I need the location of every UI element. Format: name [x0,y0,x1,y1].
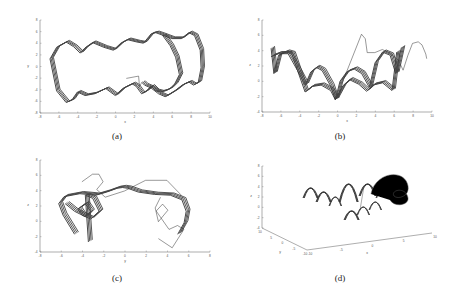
chart-panel-a: -8-6-4-2024681086420-2-4-6-8xy [0,0,230,150]
x-tick-label: -4 [298,114,301,118]
y-tick-label: 4 [36,41,38,45]
y-tick-label: -4 [35,250,38,254]
x-axis-label: x [366,251,368,255]
x-tick-label: 2 [356,114,358,118]
x-axis-label: y [124,259,126,263]
y-tick-label: -2 [257,95,260,99]
trajectory-inner-loops-right [155,197,184,248]
x-tick-label: 4 [152,115,154,119]
x-tick-label: -2 [102,254,105,258]
x-tick-label: -6 [57,115,60,119]
trajectory-excursion [343,34,427,81]
y-tick-label: 10 [258,230,262,234]
y-tick-label: 0 [258,79,260,83]
y-tick-label: 8 [36,18,38,22]
y-tick-label: 6 [36,30,38,34]
y-tick-label: -4 [257,110,260,114]
x-tick-label: -8 [39,254,42,258]
x-tick-label: 0 [372,244,374,248]
y-tick-label: 2 [36,53,38,57]
x-tick-label: -10 [308,252,313,256]
z-tick-label: 8 [258,164,260,168]
x-tick-label: 8 [190,115,192,119]
x-tick-label: -2 [95,115,98,119]
z-tick-label: 2 [258,195,260,199]
z-axis-label: z [250,194,252,198]
x-tick-label: -8 [39,115,42,119]
x-tick-label: 0 [124,254,126,258]
x-tick-label: 10 [430,114,434,118]
x-tick-label: 10 [208,115,212,119]
x-tick-label: 2 [145,254,147,258]
z-tick-label: 6 [258,174,260,178]
caption-c: (c) [97,273,137,283]
x-tick-label: 0 [337,114,339,118]
x-tick-label: 8 [209,254,211,258]
trajectory-main-loop [53,31,182,101]
y-axis-label: y [279,250,281,254]
x-tick-label: 4 [374,114,376,118]
y-tick-label: -8 [35,111,38,115]
y-tick-label: 8 [36,158,38,162]
z-tick-label: 0 [258,205,260,209]
y-tick-label: 0 [36,219,38,223]
y-axis-label: y [27,64,29,68]
x-tick-label: 6 [393,114,395,118]
z-tick-label: 4 [258,185,260,189]
y-tick-label: 6 [258,33,260,37]
y-axis-label: z [27,203,29,207]
x-tick-label: -6 [60,254,63,258]
y-tick-label: 4 [36,189,38,193]
y-tick-label: -2 [35,235,38,239]
y-tick-label: 2 [258,64,260,68]
y-tick-label: 0 [36,65,38,69]
x-axis [307,233,432,250]
x-tick-label: 2 [134,115,136,119]
y-tick-label: 6 [36,173,38,177]
caption-a: (a) [97,131,137,141]
chart-d-3d-trajectory: 86420-2-4z1050-5-10y-10-50510x [230,150,460,270]
y-tick-label: 2 [36,204,38,208]
x-tick-label: -2 [317,114,320,118]
x-tick-label: -4 [81,254,84,258]
x-tick-label: 8 [412,114,414,118]
y-tick-label: -4 [35,88,38,92]
x-axis-label: x [124,120,126,124]
chart-panel-b: -8-6-4-2024681086420-2-4xz [230,0,460,150]
x-tick-label: -8 [261,114,264,118]
chart-a-phase-portrait-xy: -8-6-4-2024681086420-2-4-6-8xy [0,0,230,130]
y-tick-label: -6 [35,99,38,103]
y-tick-label: 4 [258,49,260,53]
x-tick-label: -4 [76,115,79,119]
x-tick-label: 10 [433,235,437,239]
z-tick-label: -2 [257,216,260,220]
y-tick-label: 5 [270,236,272,240]
trajectory-inner-loops-left [68,194,102,241]
y-tick-label: 0 [282,241,284,245]
x-axis-label: x [346,119,348,123]
x-tick-label: -5 [340,248,343,252]
y-axis-label: z [249,63,251,67]
trajectory-inner-loops-left [66,195,100,242]
x-tick-label: 5 [403,239,405,243]
y-tick-label: -5 [292,247,295,251]
x-tick-label: 0 [115,115,117,119]
x-tick-label: 6 [188,254,190,258]
caption-b: (b) [320,131,360,141]
chart-c-projection-yz: -8-6-4-20246886420-2-4yz [0,150,230,270]
y-tick-label: -2 [35,76,38,80]
x-tick-label: 4 [167,254,169,258]
x-tick-label: -6 [279,114,282,118]
x-tick-label: 6 [171,115,173,119]
y-tick-label: 8 [258,18,260,22]
y-axis [262,228,307,250]
chart-b-projection-xz: -8-6-4-2024681086420-2-4xz [230,0,460,130]
caption-d: (d) [320,273,360,283]
